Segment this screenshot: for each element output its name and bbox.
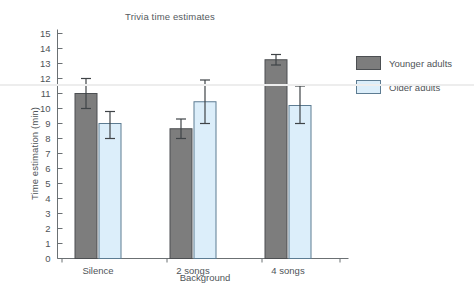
bar (99, 124, 121, 259)
legend-swatch-older-adults (356, 80, 381, 94)
y-tick-label: 6 (45, 163, 50, 174)
bar (75, 94, 97, 259)
y-tick-label: 0 (45, 253, 50, 264)
x-axis-title: Background (60, 272, 350, 283)
y-tick-label: 11 (41, 88, 51, 99)
legend-item-older-adults: Older adults (356, 77, 474, 97)
bar (194, 102, 216, 259)
y-tick-label: 14 (40, 43, 51, 54)
y-tick-label: 12 (40, 73, 51, 84)
y-tick-label: 10 (40, 103, 51, 114)
y-tick-label: 1 (45, 238, 50, 249)
legend-label-older-adults: Older adults (389, 82, 440, 93)
y-tick-label: 13 (40, 58, 51, 69)
bar (265, 60, 287, 259)
x-axis (58, 259, 349, 263)
bar (170, 129, 192, 259)
y-tick-label: 8 (45, 133, 50, 144)
legend-label-younger-adults: Younger adults (389, 58, 452, 69)
y-tick-label: 7 (45, 148, 50, 159)
y-axis: 0123456789101112131415 (40, 28, 63, 264)
y-tick-label: 5 (45, 178, 50, 189)
legend-swatch-younger-adults (356, 56, 381, 70)
y-tick-label: 3 (45, 208, 50, 219)
plot-area: 0123456789101112131415 Silence2 songs4 s… (0, 0, 474, 292)
bars-layer (75, 60, 311, 259)
chart-figure: Trivia time estimates Time estimation (m… (0, 0, 474, 292)
legend: Younger adults Older adults (356, 53, 474, 101)
legend-item-younger-adults: Younger adults (356, 53, 474, 73)
bar (289, 106, 311, 259)
y-tick-label: 2 (45, 223, 50, 234)
y-tick-label: 9 (45, 118, 50, 129)
y-tick-label: 4 (45, 193, 50, 204)
y-tick-label: 15 (40, 28, 51, 39)
